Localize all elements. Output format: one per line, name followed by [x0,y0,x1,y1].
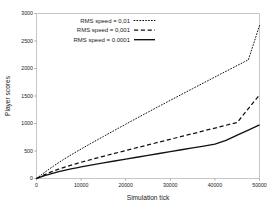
y-tick-label: 1500 [21,93,33,99]
y-axis-label: Player scores [4,75,12,116]
x-tick-label: 40000 [208,182,223,188]
legend-label-3: RMS speed = 0.0001 [73,37,130,43]
line-chart: 050010001500200025003000 010000200003000… [0,0,273,208]
x-axis-label: Simulation tick [127,194,170,201]
x-tick-label: 0 [35,182,38,188]
y-tick-label: 1000 [21,120,33,126]
x-tick-label: 20000 [118,182,133,188]
legend-label-2: RMS speed = 0,001 [77,27,131,33]
y-tick-label: 500 [24,148,33,154]
x-tick-label: 30000 [163,182,178,188]
y-tick-label: 2000 [21,65,33,71]
y-tick-label: 2500 [21,38,33,44]
y-tick-label: 3000 [21,10,33,16]
x-tick-label: 50000 [252,182,267,188]
legend-label-1: RMS speed = 0,01 [80,18,131,24]
chart-figure: 050010001500200025003000 010000200003000… [0,0,273,208]
x-tick-label: 10000 [74,182,89,188]
y-tick-label: 0 [30,175,33,181]
